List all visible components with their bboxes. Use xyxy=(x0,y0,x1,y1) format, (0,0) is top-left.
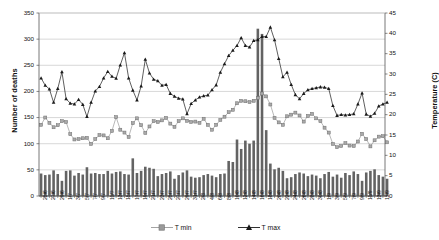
y-axis-right-tick-label: 45 xyxy=(389,10,411,16)
x-axis-tick-label: 2/8 xyxy=(201,193,206,200)
x-axis-tick-label: 13/7 xyxy=(118,190,123,200)
x-axis-tick-label: 15/7 xyxy=(126,190,131,200)
x-axis-tick-label: 27/7 xyxy=(176,190,181,200)
chart-legend: T min T max xyxy=(0,223,431,232)
y-axis-left-tick-label: 0 xyxy=(12,193,34,199)
x-axis-tick-label: 29/6 xyxy=(60,190,65,200)
y-axis-right-tick-label: 15 xyxy=(389,132,411,138)
y-axis-left-tick-label: 200 xyxy=(12,88,34,94)
x-axis-tick-label: 29/7 xyxy=(185,190,190,200)
x-axis-tick-label: 27/6 xyxy=(51,190,56,200)
x-axis-tick-label: 11/9 xyxy=(368,190,373,200)
y-axis-left-title: Number of deaths xyxy=(10,61,19,141)
x-axis-tick-label: 26/8 xyxy=(302,190,307,200)
y-axis-left-tick-label: 50 xyxy=(12,167,34,173)
x-axis-tick-label: 13/9 xyxy=(377,190,382,200)
y-axis-right-tick-label: 25 xyxy=(389,91,411,97)
legend-item-tmax: T max xyxy=(238,223,281,232)
x-axis-tick-label: 3/7 xyxy=(76,193,81,200)
y-axis-right-tick-label: 35 xyxy=(389,50,411,56)
x-axis-tick-label: 7/7 xyxy=(93,193,98,200)
x-axis-tick-label: 11/7 xyxy=(110,190,115,200)
legend-marker-triangle-icon xyxy=(238,223,260,232)
x-axis-tick-label: 21/7 xyxy=(151,190,156,200)
x-axis-tick-label: 25/6 xyxy=(43,190,48,200)
x-axis-tick-label: 5/9 xyxy=(343,193,348,200)
x-axis-tick-label: 31/7 xyxy=(193,190,198,200)
x-axis-tick-label: 4/8 xyxy=(210,193,215,200)
legend-marker-square-icon xyxy=(151,223,173,232)
x-axis-tick-label: 1/7 xyxy=(68,193,73,200)
x-axis-tick-label: 15/9 xyxy=(385,190,390,200)
x-axis-tick-label: 14/8 xyxy=(252,190,257,200)
x-axis-tick-label: 18/8 xyxy=(268,190,273,200)
legend-label-tmin: T min xyxy=(175,224,192,231)
x-axis-tick-label: 12/8 xyxy=(243,190,248,200)
x-axis-tick-label: 19/7 xyxy=(143,190,148,200)
x-axis-tick-label: 23/7 xyxy=(160,190,165,200)
x-axis-tick-label: 9/9 xyxy=(360,193,365,200)
x-axis-tick-label: 16/8 xyxy=(260,190,265,200)
y-axis-right-tick-label: 20 xyxy=(389,111,411,117)
y-axis-left-tick-label: 350 xyxy=(12,10,34,16)
x-axis-tick-label: 24/8 xyxy=(293,190,298,200)
y-axis-right-tick-label: 40 xyxy=(389,30,411,36)
x-axis-tick-label: 10/8 xyxy=(235,190,240,200)
legend-label-tmax: T max xyxy=(262,224,281,231)
x-axis-tick-label: 5/7 xyxy=(85,193,90,200)
x-axis-tick-label: 6/8 xyxy=(218,193,223,200)
y-axis-right-tick-label: 30 xyxy=(389,71,411,77)
y-axis-right-tick-label: 5 xyxy=(389,172,411,178)
x-axis-tick-label: 7/9 xyxy=(352,193,357,200)
x-axis-tick-label: 3/9 xyxy=(335,193,340,200)
x-axis-tick-label: 22/8 xyxy=(285,190,290,200)
y-axis-right-tick-label: 10 xyxy=(389,152,411,158)
x-axis-tick-label: 17/7 xyxy=(135,190,140,200)
y-axis-left-tick-label: 250 xyxy=(12,62,34,68)
y-axis-left-tick-label: 150 xyxy=(12,114,34,120)
x-axis-tick-label: 25/7 xyxy=(168,190,173,200)
x-axis-tick-label: 1/9 xyxy=(327,193,332,200)
x-axis-tick-label: 8/8 xyxy=(227,193,232,200)
y-axis-left-tick-label: 100 xyxy=(12,141,34,147)
y-axis-right-title: Temperature (C) xyxy=(430,59,439,143)
x-axis-tick-label: 20/8 xyxy=(277,190,282,200)
legend-item-tmin: T min xyxy=(151,223,192,232)
x-axis-tick-label: 30/8 xyxy=(318,190,323,200)
x-axis-tick-label: 28/8 xyxy=(310,190,315,200)
y-axis-right-tick-label: 0 xyxy=(389,193,411,199)
y-axis-left-tick-label: 300 xyxy=(12,36,34,42)
x-axis-tick-label: 9/7 xyxy=(101,193,106,200)
